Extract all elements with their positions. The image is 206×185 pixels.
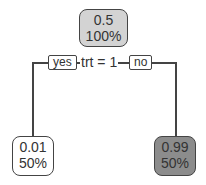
- yes-label: yes: [48, 55, 77, 70]
- left-leaf-node: 0.01 50%: [12, 136, 54, 176]
- split-condition: trt = 1: [80, 54, 118, 70]
- right-leaf-percent: 50%: [155, 155, 195, 171]
- connector-left-vertical: [32, 62, 34, 136]
- root-value: 0.5: [80, 12, 127, 28]
- right-leaf-node: 0.99 50%: [154, 136, 196, 176]
- left-leaf-percent: 50%: [13, 155, 53, 171]
- root-percent: 100%: [80, 28, 127, 44]
- connector-right-vertical: [175, 62, 177, 136]
- no-label: no: [129, 55, 152, 70]
- right-leaf-value: 0.99: [155, 139, 195, 155]
- root-node: 0.5 100%: [79, 9, 128, 47]
- left-leaf-value: 0.01: [13, 139, 53, 155]
